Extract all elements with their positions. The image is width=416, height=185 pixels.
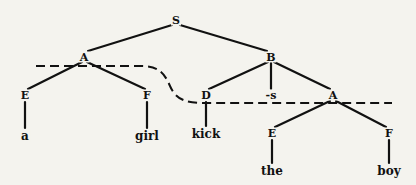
word-girl: girl <box>134 130 160 142</box>
node-F-left: F <box>142 90 152 101</box>
edge-B-D <box>209 62 268 89</box>
edge-B-A <box>274 62 330 89</box>
word-kick: kick <box>191 128 222 140</box>
node-E-left: E <box>20 90 30 101</box>
node-S: S <box>171 15 181 26</box>
node-A-left: A <box>79 52 90 63</box>
word-a: a <box>20 130 30 142</box>
dashed-boundary-line <box>36 66 392 103</box>
edge-A-F2 <box>336 101 386 127</box>
word-the: the <box>260 165 284 177</box>
edge-S-A <box>88 25 172 51</box>
node-D: D <box>200 90 212 101</box>
edge-A-E2 <box>275 101 330 127</box>
node-B: B <box>265 52 276 63</box>
node-E-right: E <box>267 128 277 139</box>
node-F-right: F <box>384 128 394 139</box>
node-suffix-s: -s <box>265 90 278 101</box>
edge-S-B <box>180 25 267 51</box>
word-boy: boy <box>376 165 401 177</box>
node-A-right: A <box>328 90 339 101</box>
